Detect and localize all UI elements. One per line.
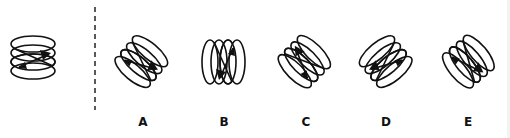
option-c-label: C bbox=[296, 115, 316, 129]
option-b-label: B bbox=[214, 115, 234, 129]
option-e-label: E bbox=[458, 115, 478, 129]
option-d-label: D bbox=[376, 115, 396, 129]
reference-figure bbox=[11, 36, 55, 79]
puzzle-figures bbox=[0, 0, 510, 138]
option-e-figure[interactable] bbox=[438, 31, 499, 92]
puzzle-canvas: A B C D E bbox=[0, 0, 510, 138]
option-b-figure[interactable] bbox=[202, 40, 245, 84]
option-a-label: A bbox=[133, 115, 153, 129]
option-d-figure[interactable] bbox=[355, 31, 416, 92]
option-a-figure[interactable] bbox=[111, 31, 172, 92]
option-c-figure[interactable] bbox=[274, 31, 336, 93]
